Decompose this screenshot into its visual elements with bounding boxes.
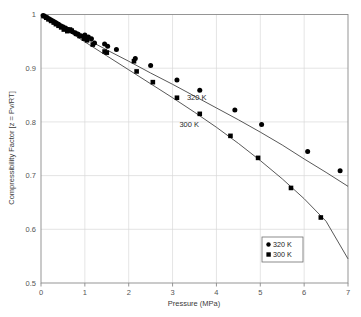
curve-label-300k: 300 K <box>179 120 199 129</box>
data-point-marker-circle <box>148 63 153 68</box>
data-point-marker-square <box>319 215 324 220</box>
x-tick-label: 2 <box>127 288 131 297</box>
data-point-marker-circle <box>305 149 310 154</box>
series-300k-markers <box>41 14 323 220</box>
data-point-marker-square <box>175 95 180 100</box>
y-tick-label: 0.9 <box>26 64 36 73</box>
data-point-marker-square <box>90 42 95 47</box>
data-point-marker-square <box>151 80 156 85</box>
x-tick-label: 3 <box>170 288 174 297</box>
data-point-marker-circle <box>105 44 110 49</box>
x-tick-label: 5 <box>258 288 262 297</box>
data-point-marker-square <box>197 112 202 117</box>
data-point-marker-circle <box>174 78 179 83</box>
x-tick-label: 7 <box>346 288 350 297</box>
y-tick-label: 0.5 <box>26 279 36 288</box>
data-point-marker-circle <box>89 36 94 41</box>
x-tick-labels: 01234567 <box>39 288 350 297</box>
y-tick-label: 1 <box>32 10 36 19</box>
data-point-marker-circle <box>232 108 237 113</box>
data-point-marker-square <box>77 34 82 39</box>
data-point-marker-square <box>134 69 139 74</box>
data-point-marker-circle <box>114 47 119 52</box>
x-tick-label: 0 <box>39 288 43 297</box>
legend-label-300k: 300 K <box>273 250 292 259</box>
x-tick-label: 4 <box>214 288 218 297</box>
chart-canvas: 01234567 0.50.60.70.80.91 320 K300 K Pre… <box>0 0 361 317</box>
y-tick-label: 0.6 <box>26 225 36 234</box>
x-axis-label: Pressure (MPa) <box>168 299 221 308</box>
x-tick-marks <box>41 283 348 287</box>
data-point-marker-circle <box>338 168 343 173</box>
x-tick-label: 6 <box>302 288 306 297</box>
y-tick-label: 0.8 <box>26 118 36 127</box>
y-axis-label: Compressibility Factor [z = Pv/RT] <box>7 91 16 204</box>
curve-label-320k: 320 K <box>187 93 207 102</box>
y-tick-label: 0.7 <box>26 171 36 180</box>
data-point-marker-square <box>85 38 90 43</box>
data-point-marker-square <box>256 156 261 161</box>
data-point-marker-square <box>69 28 74 33</box>
data-point-marker-square <box>228 134 233 139</box>
data-point-marker-square <box>132 59 137 64</box>
legend-marker-square-icon <box>266 252 270 256</box>
data-point-marker-circle <box>197 88 202 93</box>
series-fit-lines <box>41 15 348 259</box>
data-point-marker-circle <box>259 122 264 127</box>
x-tick-label: 1 <box>83 288 87 297</box>
data-point-marker-square <box>289 186 294 191</box>
legend-box: 320 K 300 K <box>262 237 303 262</box>
fit-curve-300k <box>41 15 348 259</box>
y-tick-labels: 0.50.60.70.80.91 <box>26 10 36 288</box>
legend-marker-circle-icon <box>266 242 270 246</box>
legend-label-320k: 320 K <box>273 240 292 249</box>
compressibility-factor-chart: 01234567 0.50.60.70.80.91 320 K300 K Pre… <box>0 0 361 317</box>
data-point-marker-square <box>104 50 109 55</box>
